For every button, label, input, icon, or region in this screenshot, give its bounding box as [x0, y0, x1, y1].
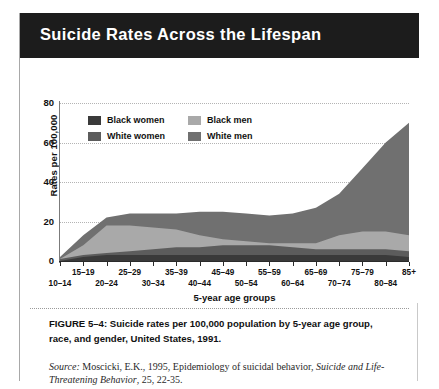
x-tick-2	[107, 262, 108, 266]
chart-legend: Black womenBlack menWhite womenWhite men	[88, 112, 303, 144]
source-label: Source:	[49, 361, 80, 372]
figure-header-bar: Suicide Rates Across the Lifespan	[20, 13, 419, 58]
legend-entry-white-men: White men	[188, 131, 288, 141]
x-tick-4	[153, 262, 154, 266]
x-tick-label-5: 35–39	[161, 268, 191, 277]
y-tick-label-0: 0	[22, 255, 54, 266]
figure-box: Suicide Rates Across the Lifespan Rates …	[19, 13, 418, 381]
x-tick-label-6: 40–44	[185, 279, 215, 288]
page-title: Suicide Rates Across the Lifespan	[40, 25, 321, 44]
x-tick-label-0: 10–14	[45, 279, 75, 288]
x-tick-6	[200, 262, 201, 266]
source-text-2: , 25, 22-35.	[137, 374, 183, 385]
x-tick-15	[409, 262, 410, 266]
figure-source: Source: Moscicki, E.K., 1995, Epidemiolo…	[49, 360, 401, 386]
x-tick-label-8: 50–54	[231, 279, 261, 288]
x-tick-label-11: 65–69	[301, 268, 331, 277]
x-tick-label-2: 20–24	[92, 279, 122, 288]
x-tick-label-10: 60–64	[278, 279, 308, 288]
legend-label: White men	[207, 131, 253, 141]
x-tick-label-14: 80–84	[371, 279, 401, 288]
figure-caption: FIGURE 5–4: Suicide rates per 100,000 po…	[49, 316, 394, 346]
x-tick-13	[362, 262, 363, 266]
x-tick-label-9: 55–59	[254, 268, 284, 277]
x-tick-1	[83, 262, 84, 266]
legend-label: White women	[107, 131, 165, 141]
source-text-1: Moscicki, E.K., 1995, Epidemiology of su…	[80, 361, 316, 372]
legend-entry-black-women: Black women	[88, 115, 188, 125]
y-axis-line	[59, 101, 60, 263]
x-tick-14	[386, 262, 387, 266]
x-tick-10	[293, 262, 294, 266]
legend-swatch-icon	[188, 132, 201, 141]
legend-swatch-icon	[88, 116, 101, 125]
x-axis-title: 5-year age groups	[60, 292, 409, 303]
legend-swatch-icon	[88, 132, 101, 141]
y-tick-label-80: 80	[22, 97, 54, 108]
y-tick-label-40: 40	[22, 176, 54, 187]
legend-swatch-icon	[188, 116, 201, 125]
x-tick-label-3: 25–29	[115, 268, 145, 277]
caption-line-2: race, and gender, United States, 1991.	[49, 333, 221, 344]
x-tick-label-4: 30–34	[138, 279, 168, 288]
x-axis-line	[59, 261, 409, 262]
x-tick-3	[130, 262, 131, 266]
y-tick-label-60: 60	[22, 137, 54, 148]
caption-line-1: FIGURE 5–4: Suicide rates per 100,000 po…	[49, 318, 373, 329]
chart-region: Rates per 100,000 020406080 10–1415–1920…	[20, 58, 419, 303]
x-tick-7	[223, 262, 224, 266]
x-tick-label-13: 75–79	[347, 268, 377, 277]
legend-entry-black-men: Black men	[188, 115, 288, 125]
x-tick-5	[176, 262, 177, 266]
legend-entry-white-women: White women	[88, 131, 188, 141]
x-tick-label-7: 45–49	[208, 268, 238, 277]
legend-label: Black men	[207, 115, 252, 125]
x-tick-label-15: 85+	[394, 268, 424, 277]
x-tick-label-12: 70–74	[324, 279, 354, 288]
x-tick-12	[339, 262, 340, 266]
x-tick-0	[60, 262, 61, 266]
y-tick-label-20: 20	[22, 216, 54, 227]
x-tick-11	[316, 262, 317, 266]
caption-divider	[30, 308, 409, 309]
x-tick-8	[246, 262, 247, 266]
x-tick-9	[269, 262, 270, 266]
y-axis-title: Rates per 100,000	[48, 101, 59, 211]
x-tick-label-1: 15–19	[68, 268, 98, 277]
legend-label: Black women	[107, 115, 165, 125]
